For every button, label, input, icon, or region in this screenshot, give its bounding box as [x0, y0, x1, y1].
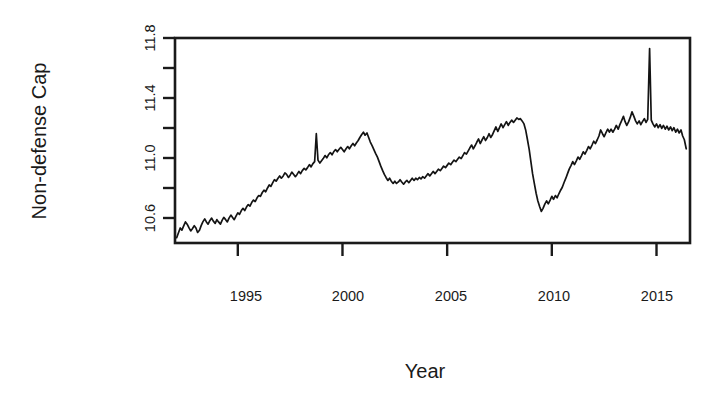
x-axis-ticks: [238, 243, 657, 256]
data-series-line: [177, 49, 687, 238]
x-tick-label-1995: 1995: [230, 288, 262, 304]
y-axis-title: Non-defense Cap: [28, 63, 50, 220]
y-tick-label-11-0: 11.0: [142, 144, 158, 171]
y-axis-tick-labels: 11.8 11.4 11.0 10.6: [142, 24, 158, 232]
y-tick-label-11-8: 11.8: [142, 24, 158, 51]
y-tick-label-10-6: 10.6: [142, 204, 158, 232]
line-chart-svg: 11.8 11.4 11.0 10.6 1995 2000 2005 2010 …: [0, 0, 723, 403]
x-tick-label-2010: 2010: [538, 288, 570, 304]
x-axis-tick-labels: 1995 2000 2005 2010 2015: [230, 288, 673, 304]
x-tick-label-2005: 2005: [435, 288, 467, 304]
x-tick-label-2000: 2000: [332, 288, 364, 304]
chart-figure: 11.8 11.4 11.0 10.6 1995 2000 2005 2010 …: [0, 0, 723, 403]
y-tick-label-11-4: 11.4: [142, 84, 158, 111]
x-tick-label-2015: 2015: [641, 288, 673, 304]
y-axis-ticks: [163, 38, 175, 218]
x-axis-title: Year: [405, 360, 446, 382]
plot-frame: [175, 38, 690, 243]
